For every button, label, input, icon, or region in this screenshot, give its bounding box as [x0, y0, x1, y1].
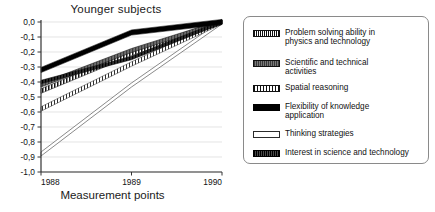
legend-item[interactable]: Interest in science and technology	[253, 148, 409, 157]
chart-panel: Younger subjects 0,0-0,1-0,2-0,3-0,4-0,5…	[0, 0, 232, 212]
y-tick-label: 0,0	[23, 17, 35, 27]
legend-swatch-icon	[253, 104, 280, 111]
legend-item-label: Interest in science and technology	[285, 148, 409, 157]
x-axis-labels: 198819891990	[41, 177, 222, 187]
legend-swatch-icon	[253, 60, 280, 67]
legend-item-label: Problem solving ability in physics and t…	[285, 28, 375, 47]
x-tick-label: 1989	[122, 177, 141, 187]
legend-swatch-icon	[253, 30, 280, 37]
y-tick-label: -0,9	[21, 152, 36, 162]
legend-item-label: Spatial reasoning	[285, 83, 348, 92]
legend-swatch-icon	[253, 150, 280, 157]
legend-item[interactable]: Scientific and technical activities	[253, 58, 368, 77]
chart-legend: Problem solving ability in physics and t…	[243, 16, 429, 164]
legend-item-label: Thinking strategies	[285, 129, 354, 138]
legend-swatch-icon	[253, 85, 280, 92]
x-tick-label: 1990	[203, 177, 222, 187]
data-series-group	[41, 19, 222, 156]
data-series-line	[41, 20, 222, 156]
legend-item[interactable]: Spatial reasoning	[253, 83, 348, 92]
legend-item[interactable]: Flexibility of knowledge application	[253, 102, 369, 121]
chart-title: Younger subjects	[0, 3, 232, 15]
x-axis-title: Measurement points	[0, 189, 225, 201]
y-tick-label: -0,2	[21, 47, 36, 57]
legend-item[interactable]: Problem solving ability in physics and t…	[253, 28, 375, 47]
y-tick-label: -0,1	[21, 32, 36, 42]
y-tick-label: -0,5	[21, 92, 36, 102]
legend-item[interactable]: Thinking strategies	[253, 129, 354, 138]
y-tick-label: -0,6	[21, 107, 36, 117]
y-axis-labels: 0,0-0,1-0,2-0,3-0,4-0,5-0,6-0,7-0,8-0,9-…	[21, 17, 36, 177]
legend-item-label: Flexibility of knowledge application	[285, 102, 369, 121]
chart-screenshot: Younger subjects 0,0-0,1-0,2-0,3-0,4-0,5…	[0, 0, 435, 212]
y-tick-label: -0,8	[21, 137, 36, 147]
y-tick-label: -0,7	[21, 122, 36, 132]
plot-area: 0,0-0,1-0,2-0,3-0,4-0,5-0,6-0,7-0,8-0,9-…	[0, 17, 232, 189]
y-tick-label: -0,3	[21, 62, 36, 72]
y-tick-label: -1,0	[21, 167, 36, 177]
legend-item-label: Scientific and technical activities	[285, 58, 368, 77]
y-tick-label: -0,4	[21, 77, 36, 87]
x-tick-label: 1988	[41, 177, 60, 187]
legend-swatch-icon	[253, 131, 280, 138]
